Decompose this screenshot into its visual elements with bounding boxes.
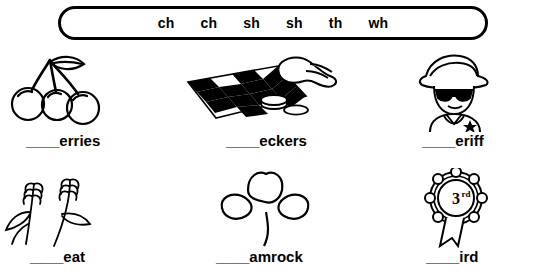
item-label-checkers: ____eckers: [226, 132, 354, 149]
word-bank-item-6: wh: [368, 15, 388, 31]
worksheet-item-checkers: ____eckers: [178, 52, 354, 149]
worksheet-item-third: 3 rd ____ird: [360, 168, 536, 265]
svg-text:3: 3: [452, 190, 460, 207]
svg-text:rd: rd: [462, 189, 471, 199]
worksheet-page: ch ch sh sh th wh: [0, 0, 541, 272]
cherries-illustration: [4, 52, 180, 132]
worksheet-item-wheat: ____eat: [4, 168, 180, 265]
wheat-illustration: [4, 168, 180, 248]
checkerboard-illustration: [178, 52, 354, 132]
item-label-third: ____ird: [426, 248, 536, 265]
word-bank-items: ch ch sh sh th wh: [158, 15, 388, 31]
worksheet-item-shamrock: ____amrock: [178, 168, 354, 265]
sheriff-illustration: [360, 52, 536, 132]
item-label-wheat: ____eat: [30, 248, 180, 265]
shamrock-illustration: [178, 168, 354, 248]
item-label-shamrock: ____amrock: [216, 248, 354, 265]
word-bank: ch ch sh sh th wh: [58, 6, 488, 40]
word-bank-item-4: sh: [286, 15, 303, 31]
item-label-cherries: ____erries: [26, 132, 180, 149]
word-bank-item-3: sh: [243, 15, 260, 31]
word-bank-item-2: ch: [201, 15, 218, 31]
worksheet-item-sheriff: ____eriff: [360, 52, 536, 149]
word-bank-item-1: ch: [158, 15, 175, 31]
worksheet-item-cherries: ____erries: [4, 52, 180, 149]
word-bank-item-5: th: [329, 15, 343, 31]
third-place-ribbon-illustration: 3 rd: [360, 168, 536, 248]
item-label-sheriff: ____eriff: [422, 132, 536, 149]
